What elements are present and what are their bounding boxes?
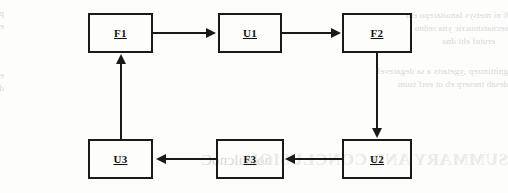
node-f1-label: F1 (114, 27, 127, 39)
edge-u1-to-f2-arrowhead (331, 28, 341, 38)
ghost-text-line: devlove eb erofereht nac erutcurts (0, 83, 4, 93)
node-u3-label: U3 (113, 153, 127, 165)
edge-f3-to-u3-arrowhead (156, 154, 166, 164)
node-f3-label: F3 (244, 153, 257, 165)
node-u1[interactable]: U1 (218, 13, 282, 53)
ghost-text-line: desab tneserp eb ot eerf tsum (397, 79, 508, 89)
edge-u1-to-f2-line (282, 32, 332, 34)
node-u2[interactable]: U2 (342, 139, 412, 179)
edge-u3-to-f1-arrowhead (116, 54, 126, 64)
node-u2-label: U2 (370, 153, 384, 165)
edge-u2-to-f3-arrowhead (285, 154, 295, 164)
edge-f1-to-u1-arrowhead (206, 28, 216, 38)
ghost-text-line: eht fo tluser eht si tpecnoc ruo ,tub (0, 70, 4, 80)
edge-u2-to-f3-line (294, 158, 342, 160)
ghost-text-line: peo spite gnittimba ylevitisop (0, 8, 4, 18)
node-f2-label: F2 (371, 27, 384, 39)
node-u1-label: U1 (243, 27, 257, 39)
edge-u3-to-f1-line (120, 62, 122, 139)
node-f2[interactable]: F2 (342, 13, 412, 53)
edge-f3-to-u3-line (165, 158, 216, 160)
edge-f2-to-u2-arrowhead (372, 128, 382, 138)
edge-f1-to-u1-line (153, 32, 208, 34)
ghost-text-line: secnatsmucric yna rednu (414, 23, 508, 33)
edge-f2-to-u2-line (376, 53, 378, 129)
scanned-page-canvas: peo spite gnittimba ylevitisop elbaveihc… (0, 0, 508, 193)
node-u3[interactable]: U3 (88, 139, 153, 179)
node-f1[interactable]: F1 (88, 13, 153, 53)
ghost-text-line: 6 ni metsys lanoitarepo eht (406, 10, 508, 20)
ghost-text-line: gnittimrep ,ygetarts a sa degarevel (377, 66, 508, 76)
ghost-text-line: erutuf eht dna (442, 36, 495, 46)
ghost-text-line: elbaveihc si evitcejbo eht taht (0, 21, 4, 31)
node-f3[interactable]: F3 (216, 139, 284, 179)
